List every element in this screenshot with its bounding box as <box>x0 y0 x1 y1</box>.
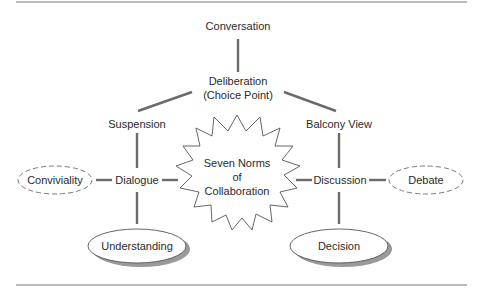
node-deliberation-choice-point: (Choice Point) <box>188 89 288 102</box>
node-suspension: Suspension <box>97 118 177 131</box>
node-discussion: Discussion <box>309 174 371 187</box>
node-balcony-view: Balcony View <box>294 118 384 131</box>
diagram-canvas <box>0 0 482 288</box>
node-conviviality: Conviviality <box>15 174 95 187</box>
connector-deliberation-balcony <box>284 92 336 111</box>
node-decision: Decision <box>299 240 379 253</box>
center-of: of <box>197 171 277 184</box>
connector-deliberation-suspension <box>138 92 192 111</box>
node-dialogue: Dialogue <box>107 174 167 187</box>
node-deliberation: Deliberation <box>188 75 288 88</box>
center-collaboration: Collaboration <box>192 185 282 198</box>
node-conversation: Conversation <box>188 20 288 33</box>
center-seven-norms: Seven Norms <box>197 157 277 170</box>
node-debate: Debate <box>391 174 461 187</box>
node-understanding: Understanding <box>92 240 182 253</box>
